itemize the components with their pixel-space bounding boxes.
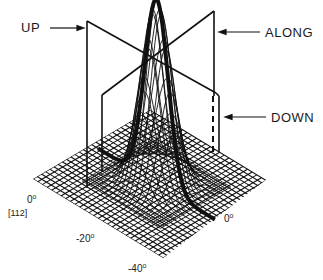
down-plane <box>213 93 219 152</box>
direction-label-112: [112] <box>8 208 27 218</box>
arrow-up <box>50 26 84 31</box>
label-along: ALONG <box>265 25 313 40</box>
surface-diagram <box>0 0 323 280</box>
tick-left-zero: 0o <box>27 193 36 205</box>
arrow-along <box>219 30 260 35</box>
label-down: DOWN <box>271 110 314 125</box>
base-grid <box>33 110 280 258</box>
tick-right-zero: 0o <box>224 212 233 224</box>
arrow-down <box>225 115 266 120</box>
label-up: UP <box>21 20 40 35</box>
tick-minus20: -20o <box>76 232 94 244</box>
tick-minus40: -40o <box>128 262 146 274</box>
